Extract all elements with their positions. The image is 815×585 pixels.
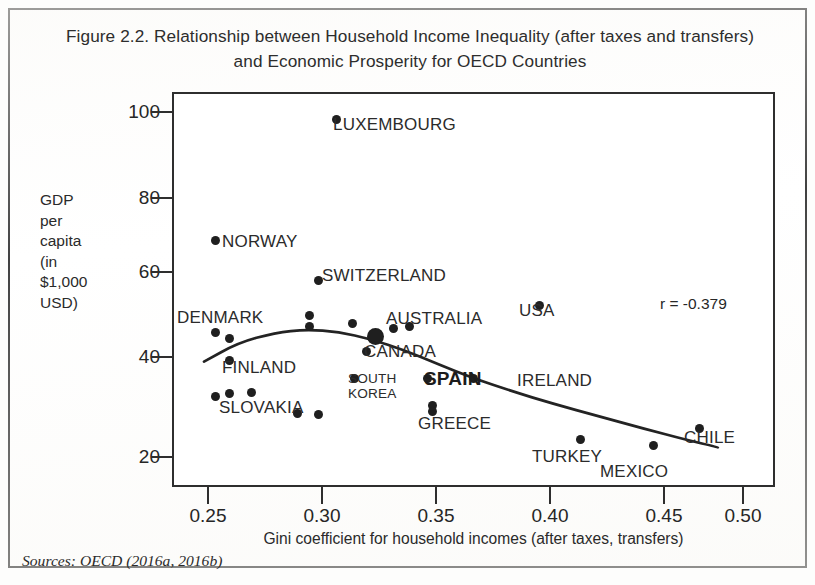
- data-point-unlabeled-7: [247, 388, 256, 397]
- source-note: Sources: OECD (2016a, 2016b): [22, 552, 222, 570]
- data-point-turkey: [576, 435, 585, 444]
- point-label-norway: NORWAY: [222, 232, 298, 252]
- point-label-slovakia: SLOVAKIA: [219, 398, 303, 418]
- point-label-mexico: MEXICO: [600, 462, 668, 482]
- data-point-unlabeled-2: [305, 322, 314, 331]
- point-label-canada: CANADA: [364, 342, 436, 362]
- data-point-unlabeled-0: [225, 334, 234, 343]
- data-point-mexico: [649, 441, 658, 450]
- data-point-unlabeled-9: [314, 410, 323, 419]
- point-label-luxembourg: LUXEMBOURG: [333, 115, 456, 135]
- point-label-ireland: IRELAND: [517, 371, 592, 391]
- point-label-switzerland: SWITZERLAND: [322, 266, 446, 286]
- point-label-south-korea: SOUTH KOREA: [348, 371, 397, 401]
- data-points-layer: [0, 0, 815, 585]
- point-label-denmark: DENMARK: [177, 308, 263, 328]
- data-point-denmark: [211, 328, 220, 337]
- point-label-chile: CHILE: [684, 428, 735, 448]
- data-point-unlabeled-3: [348, 319, 357, 328]
- point-label-spain: SPAIN: [424, 368, 482, 390]
- point-label-usa: USA: [519, 301, 555, 321]
- point-label-turkey: TURKEY: [532, 447, 602, 467]
- data-point-unlabeled-6: [225, 389, 234, 398]
- data-point-unlabeled-1: [305, 311, 314, 320]
- figure-container: Figure 2.2. Relationship between Househo…: [0, 0, 815, 585]
- point-label-south-korea-line1: SOUTH: [348, 371, 397, 386]
- point-label-australia: AUSTRALIA: [386, 309, 482, 329]
- point-label-greece: GREECE: [418, 414, 491, 434]
- data-point-norway: [211, 236, 220, 245]
- x-axis-title: Gini coefficient for household incomes (…: [172, 530, 775, 548]
- point-label-south-korea-line2: KOREA: [348, 386, 397, 401]
- point-label-finland: FINLAND: [222, 358, 296, 378]
